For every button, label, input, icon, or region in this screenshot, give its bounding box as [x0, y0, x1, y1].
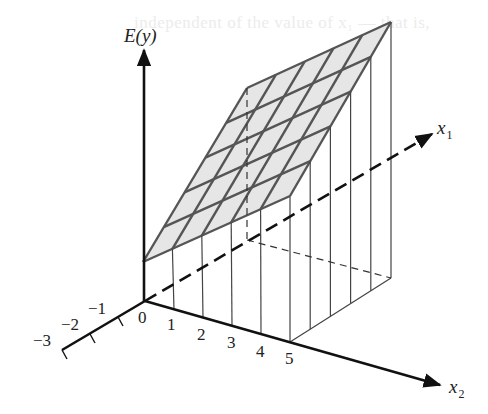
x2-axis-label: x2	[448, 376, 464, 401]
svg-text:0: 0	[138, 308, 147, 327]
svg-text:2: 2	[197, 325, 206, 344]
regression-plane-diagram: E(y) x1 x2 −1 −2 −3 0 1 2 3 4 5	[0, 0, 488, 414]
regression-plane	[143, 22, 391, 262]
svg-text:3: 3	[227, 333, 236, 352]
x2-axis	[145, 301, 440, 385]
svg-text:−2: −2	[61, 315, 79, 334]
x2-tick-labels: 0 1 2 3 4 5	[138, 308, 294, 368]
svg-text:−3: −3	[33, 331, 51, 350]
x1-axis-label: x1	[436, 117, 452, 142]
base-right-edge	[290, 278, 391, 342]
svg-text:1: 1	[167, 315, 176, 334]
svg-text:−1: −1	[88, 299, 106, 318]
svg-text:5: 5	[285, 349, 294, 368]
svg-text:4: 4	[256, 342, 265, 361]
ey-axis-label: E(y)	[123, 25, 157, 47]
